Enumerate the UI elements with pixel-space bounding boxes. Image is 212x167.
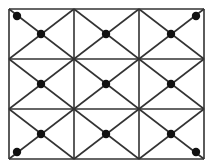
- center-dot: [102, 30, 110, 38]
- center-dot: [167, 30, 175, 38]
- center-dot: [37, 30, 45, 38]
- corner-dot: [192, 12, 200, 20]
- corner-dot: [13, 12, 21, 20]
- corner-dot: [13, 148, 21, 156]
- center-dot: [102, 80, 110, 88]
- center-dot: [37, 80, 45, 88]
- center-dot: [167, 80, 175, 88]
- center-dot: [37, 130, 45, 138]
- center-dot: [102, 130, 110, 138]
- grid-diagram: [0, 0, 212, 167]
- corner-dot: [192, 148, 200, 156]
- center-dot: [167, 130, 175, 138]
